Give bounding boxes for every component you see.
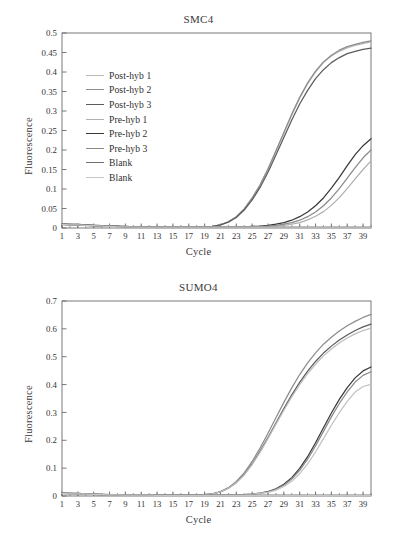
plot-area-smc4: 1357911131517192123252729313335373900.05… xyxy=(0,0,397,270)
legend-swatch-icon xyxy=(86,177,104,178)
legend-label: Post-hyb 3 xyxy=(109,99,151,110)
y-tick-label: 0.45 xyxy=(42,48,58,58)
legend-item: Post-hyb 3 xyxy=(86,97,151,112)
panel-smc4: SMC4 Fluorescence 1357911131517192123252… xyxy=(0,0,397,270)
series-line xyxy=(62,367,371,495)
x-tick-label: 39 xyxy=(359,231,368,241)
y-tick-label: 0.15 xyxy=(42,165,58,175)
legend-label: Pre-hyb 3 xyxy=(109,143,147,154)
x-tick-label: 5 xyxy=(92,231,96,241)
x-tick-label: 17 xyxy=(184,231,193,241)
y-tick-label: 0 xyxy=(53,223,58,233)
legend-item: Post-hyb 2 xyxy=(86,83,151,98)
legend-item: Blank xyxy=(86,156,151,171)
x-tick-label: 13 xyxy=(153,231,162,241)
y-tick-label: 0.4 xyxy=(46,67,58,77)
y-tick-label: 0.2 xyxy=(46,435,57,445)
x-tick-label: 15 xyxy=(169,499,178,509)
legend-label: Pre-hyb 1 xyxy=(109,114,147,125)
x-tick-label: 23 xyxy=(232,231,241,241)
y-tick-label: 0.3 xyxy=(46,106,58,116)
legend-swatch-icon xyxy=(86,75,104,76)
x-axis-label-sumo4: Cycle xyxy=(0,514,397,525)
y-tick-label: 0.1 xyxy=(46,184,57,194)
x-tick-label: 9 xyxy=(123,231,127,241)
x-tick-label: 35 xyxy=(327,499,336,509)
x-tick-label: 37 xyxy=(343,231,352,241)
legend-item: Pre-hyb 2 xyxy=(86,126,151,141)
x-tick-label: 5 xyxy=(92,499,96,509)
series-line xyxy=(62,314,371,495)
legend-label: Blank xyxy=(109,172,132,183)
x-tick-label: 17 xyxy=(184,499,193,509)
legend-label: Post-hyb 2 xyxy=(109,84,151,95)
legend-label: Blank xyxy=(109,157,132,168)
x-tick-label: 33 xyxy=(311,499,320,509)
legend-swatch-icon xyxy=(86,148,104,149)
y-tick-label: 0 xyxy=(53,491,58,501)
x-tick-label: 1 xyxy=(60,499,64,509)
x-tick-label: 9 xyxy=(123,499,127,509)
legend-swatch-icon xyxy=(86,89,104,90)
x-tick-label: 31 xyxy=(295,499,304,509)
y-tick-label: 0.5 xyxy=(46,28,58,38)
legend-item: Pre-hyb 3 xyxy=(86,141,151,156)
x-tick-label: 25 xyxy=(248,231,257,241)
y-tick-label: 0.1 xyxy=(46,463,57,473)
legend-label: Post-hyb 1 xyxy=(109,70,151,81)
x-tick-label: 33 xyxy=(311,231,320,241)
x-tick-label: 29 xyxy=(280,231,289,241)
y-tick-label: 0.7 xyxy=(46,296,58,306)
panel-sumo4: SUMO4 Fluorescence 135791113151719212325… xyxy=(0,268,397,538)
y-tick-label: 0.35 xyxy=(42,87,58,97)
x-tick-label: 21 xyxy=(216,231,225,241)
legend-label: Pre-hyb 2 xyxy=(109,128,147,139)
x-tick-label: 13 xyxy=(153,499,162,509)
series-line xyxy=(62,493,371,495)
x-tick-label: 15 xyxy=(169,231,178,241)
x-tick-label: 19 xyxy=(200,499,209,509)
y-tick-label: 0.4 xyxy=(46,380,58,390)
plot-area-sumo4: 1357911131517192123252729313335373900.10… xyxy=(0,268,397,538)
x-tick-label: 7 xyxy=(107,499,112,509)
legend-swatch-icon xyxy=(86,104,104,105)
series-line xyxy=(62,372,371,496)
x-tick-label: 37 xyxy=(343,499,352,509)
legend-smc4: Post-hyb 1Post-hyb 2Post-hyb 3Pre-hyb 1P… xyxy=(86,68,151,185)
legend-swatch-icon xyxy=(86,162,104,163)
y-tick-label: 0.5 xyxy=(46,352,58,362)
x-tick-label: 3 xyxy=(76,499,80,509)
y-tick-label: 0.2 xyxy=(46,145,57,155)
x-tick-label: 39 xyxy=(359,499,368,509)
x-tick-label: 19 xyxy=(200,231,209,241)
x-tick-label: 11 xyxy=(137,231,145,241)
series-line xyxy=(62,328,371,495)
x-tick-label: 29 xyxy=(280,499,289,509)
legend-item: Blank xyxy=(86,170,151,185)
x-tick-label: 3 xyxy=(76,231,80,241)
legend-swatch-icon xyxy=(86,133,104,134)
y-tick-label: 0.05 xyxy=(42,204,58,214)
x-tick-label: 11 xyxy=(137,499,145,509)
y-tick-label: 0.6 xyxy=(46,324,58,334)
series-line xyxy=(62,324,371,495)
x-tick-label: 31 xyxy=(295,231,304,241)
x-tick-label: 35 xyxy=(327,231,336,241)
qpcr-amplification-figure: SMC4 Fluorescence 1357911131517192123252… xyxy=(0,0,397,538)
legend-swatch-icon xyxy=(86,119,104,120)
series-line xyxy=(62,384,371,495)
legend-item: Pre-hyb 1 xyxy=(86,112,151,127)
x-tick-label: 21 xyxy=(216,499,225,509)
y-tick-label: 0.25 xyxy=(42,126,58,136)
y-tick-label: 0.3 xyxy=(46,408,58,418)
x-tick-label: 23 xyxy=(232,499,241,509)
x-tick-label: 25 xyxy=(248,499,257,509)
x-tick-label: 1 xyxy=(60,231,64,241)
x-axis-label-smc4: Cycle xyxy=(0,246,397,257)
x-tick-label: 27 xyxy=(264,499,273,509)
legend-item: Post-hyb 1 xyxy=(86,68,151,83)
x-tick-label: 27 xyxy=(264,231,273,241)
x-tick-label: 7 xyxy=(107,231,112,241)
